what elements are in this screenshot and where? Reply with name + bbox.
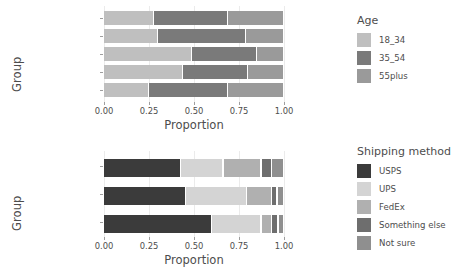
- bar-segment-18-34: [104, 11, 153, 25]
- legend-swatch-icon: [357, 200, 371, 214]
- bar-segment-usps: [104, 187, 185, 205]
- bar-segment-18-34: [104, 65, 182, 79]
- legend-label: FedEx: [379, 202, 405, 212]
- top-y-axis-title: Group: [10, 56, 24, 92]
- bar-not-sure: [104, 83, 284, 97]
- bar-segment-55plus: [246, 29, 283, 43]
- top-panel: Group USPS UPS FedEx Something else Not …: [0, 0, 440, 139]
- x-label-100: 1.00: [269, 106, 299, 116]
- bar-segment-55plus: [257, 47, 283, 61]
- x-label-025: 0.25: [134, 106, 164, 116]
- bottom-legend: Shipping method USPSUPSFedExSomething el…: [357, 145, 451, 252]
- y-tick-mark: [100, 54, 103, 55]
- legend-label: Something else: [379, 220, 446, 230]
- x-tick-mark: [194, 237, 195, 240]
- y-tick-mark: [100, 72, 103, 73]
- legend-item-18-34[interactable]: 18_34: [357, 31, 408, 48]
- gridline: [284, 151, 285, 237]
- y-tick-mark: [100, 18, 103, 19]
- bar-segment-usps: [104, 159, 180, 177]
- bottom-plot-area: [104, 151, 284, 237]
- bar-ups: [104, 29, 284, 43]
- legend-item-fedex[interactable]: FedEx: [357, 198, 451, 215]
- x-label-075: 0.75: [224, 241, 254, 251]
- bottom-panel: Group 18_34 35_54 55plus 0.00 0.25 0.50 …: [0, 139, 440, 277]
- x-tick-mark: [149, 237, 150, 240]
- bar-segment-not-sure: [279, 215, 283, 233]
- legend-label: 55plus: [379, 71, 408, 81]
- bar-segment-not-sure: [278, 187, 283, 205]
- bar-something-else: [104, 65, 284, 79]
- gridline: [284, 6, 285, 102]
- legend-item-35-54[interactable]: 35_54: [357, 49, 408, 66]
- legend-item-not-sure[interactable]: Not sure: [357, 234, 451, 251]
- legend-item-usps[interactable]: USPS: [357, 162, 451, 179]
- x-label-050: 0.50: [179, 241, 209, 251]
- legend-swatch-icon: [357, 236, 371, 250]
- legend-item-something-else[interactable]: Something else: [357, 216, 451, 233]
- bar-35-54: [104, 187, 284, 205]
- bar-segment-something-else: [272, 215, 277, 233]
- bar-segment-something-else: [262, 159, 272, 177]
- bar-segment-ups: [212, 215, 260, 233]
- bar-segment-35-54: [192, 47, 256, 61]
- x-tick-mark: [284, 237, 285, 240]
- bar-segment-35-54: [158, 29, 245, 43]
- bottom-y-axis-title: Group: [10, 195, 24, 231]
- bar-segment-18-34: [104, 83, 148, 97]
- bar-segment-18-34: [104, 47, 191, 61]
- bar-segment-not-sure: [272, 159, 283, 177]
- bar-segment-55plus: [228, 83, 283, 97]
- bar-segment-fedex: [247, 187, 271, 205]
- x-label-0: 0.00: [89, 241, 119, 251]
- bar-usps: [104, 11, 284, 25]
- bar-segment-ups: [186, 187, 246, 205]
- bar-segment-55plus: [248, 65, 283, 79]
- x-tick-mark: [149, 102, 150, 105]
- bar-segment-55plus: [228, 11, 283, 25]
- legend-item-ups[interactable]: UPS: [357, 180, 451, 197]
- bar-fedex: [104, 47, 284, 61]
- bar-segment-fedex: [224, 159, 261, 177]
- top-legend: Age 18_3435_5455plus: [357, 14, 408, 85]
- x-tick-mark: [284, 102, 285, 105]
- top-legend-items: 18_3435_5455plus: [357, 31, 408, 84]
- legend-swatch-icon: [357, 69, 371, 83]
- bar-55plus: [104, 215, 284, 233]
- legend-item-55plus[interactable]: 55plus: [357, 67, 408, 84]
- top-x-axis-title: Proportion: [134, 118, 254, 132]
- legend-label: 35_54: [379, 53, 405, 63]
- x-label-100: 1.00: [269, 241, 299, 251]
- legend-label: UPS: [379, 184, 396, 194]
- top-plot-area: [104, 6, 284, 102]
- legend-swatch-icon: [357, 218, 371, 232]
- bottom-x-axis-title: Proportion: [134, 253, 254, 267]
- y-tick-mark: [100, 194, 103, 195]
- x-tick-mark: [104, 237, 105, 240]
- y-tick-mark: [100, 222, 103, 223]
- x-tick-mark: [239, 102, 240, 105]
- x-tick-mark: [194, 102, 195, 105]
- x-tick-mark: [239, 237, 240, 240]
- legend-swatch-icon: [357, 51, 371, 65]
- x-label-025: 0.25: [134, 241, 164, 251]
- bar-18-34: [104, 159, 284, 177]
- legend-swatch-icon: [357, 164, 371, 178]
- x-label-0: 0.00: [89, 106, 119, 116]
- bar-segment-35-54: [183, 65, 247, 79]
- legend-swatch-icon: [357, 182, 371, 196]
- x-tick-mark: [104, 102, 105, 105]
- bottom-legend-title: Shipping method: [357, 145, 451, 158]
- bar-segment-fedex: [262, 215, 272, 233]
- bar-segment-35-54: [154, 11, 227, 25]
- y-tick-mark: [100, 36, 103, 37]
- top-legend-title: Age: [357, 14, 408, 27]
- y-tick-mark: [100, 90, 103, 91]
- bar-segment-18-34: [104, 29, 157, 43]
- bar-segment-something-else: [272, 187, 276, 205]
- bottom-legend-items: USPSUPSFedExSomething elseNot sure: [357, 162, 451, 251]
- legend-swatch-icon: [357, 33, 371, 47]
- x-label-050: 0.50: [179, 106, 209, 116]
- bar-segment-ups: [181, 159, 222, 177]
